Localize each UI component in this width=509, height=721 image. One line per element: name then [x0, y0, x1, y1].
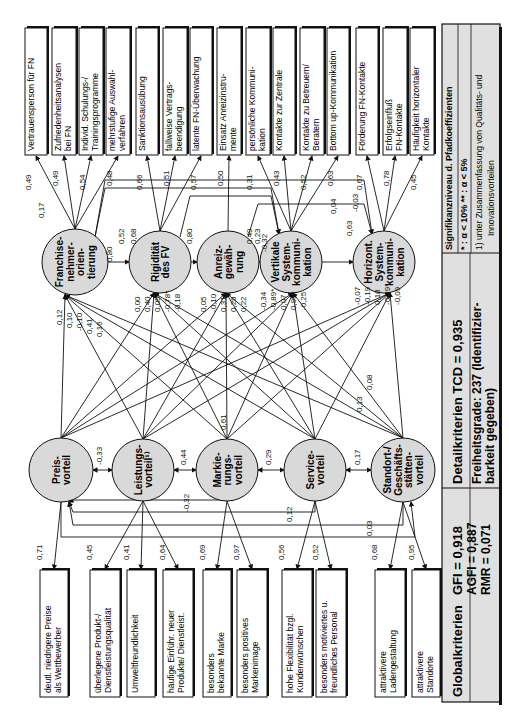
construct-label: kommuni- [384, 238, 395, 286]
bottom-indicator-box: attraktivereLadengestaltung [375, 568, 407, 697]
coefficient-label: 0,63 [326, 170, 335, 186]
top-indicator-label: beendigung [174, 106, 184, 151]
bottom-indicator-label: Produkte/ Dienstleist. [176, 613, 186, 693]
coefficient-label: 0,52 [311, 544, 320, 560]
coefficient-label: 0,05 [153, 296, 162, 312]
coefficient-label: 0,44 [179, 449, 188, 465]
top-indicator-label: Trainingsprogramme [90, 73, 100, 151]
bottom-indicator-label: Standorte [425, 656, 435, 693]
top-indicator-label: Einsatz Anreizinstru- [218, 73, 228, 151]
top-indicator-label: fallweise Vertrags- [164, 81, 174, 151]
coefficient-label: 0,45 [85, 544, 94, 560]
legend-significance-title: Signifikanzniveau d. Pfadkoeffizienten [444, 86, 454, 250]
top-indicator-label: Beratern [311, 118, 321, 151]
construct-label: Geschäfts- [393, 444, 404, 496]
coefficient-label: 0,71 [35, 544, 44, 560]
coefficient-label: 0,43 [272, 170, 281, 186]
top-indicator-box: ErfolgseinflußFN-Kontakte [383, 26, 409, 155]
bottom-indicator-label: attraktivere [415, 651, 425, 693]
coefficient-label: 0,99* [289, 291, 298, 310]
construct-label: stätten- [403, 452, 414, 488]
bottom-indicator-box: besonders motiviertes u.freundliches Per… [316, 568, 348, 697]
coefficient-label: 0,03 [365, 520, 374, 536]
coefficient-label: -0,32 [182, 493, 191, 512]
construct-label: gewäh- [223, 245, 234, 279]
legend-global-label: Globalkriterien [450, 605, 465, 697]
construct-label: Rigidität [150, 241, 161, 282]
bottom-indicator-label: Ladengestaltung [388, 630, 398, 693]
coefficient-label: 0,78 [382, 170, 391, 186]
top-indicator-label: Kontakte zur Zentrale [274, 69, 284, 151]
coefficient-label: -0,09 [393, 286, 402, 305]
top-indicator-box: Kontakte zur Zentrale [273, 26, 297, 155]
bottom-indicator-label: Umweltfreundlichkeit [130, 614, 140, 693]
bottom-indicator-label: hohe Flexibilität bzgl. [285, 614, 295, 693]
bottom-indicator-label: Kundenwünschen [295, 625, 305, 693]
bottom-indicator-box: besondersbekannte Marke [203, 568, 233, 697]
top-indicator-boxes: Vertrauensperson für FNZufriedenheitsana… [25, 26, 436, 155]
legend-footnote-1: 1) unter Zusammenfassung von Qualitäts- … [474, 74, 484, 250]
top-indicator-box: Förderung FN-Kontakte [356, 26, 380, 155]
coefficient-label: 0,40 [143, 296, 152, 312]
coefficient-label: 0,17 [353, 449, 362, 465]
construct-label: kation [302, 247, 313, 276]
coefficient-label: 0,18 [373, 289, 382, 305]
bottom-indicator-box: besonders positivesMarkenimage [237, 568, 269, 697]
top-indicator-label: Zufriedenheitsanalysen [53, 63, 63, 151]
upper-construct-node: Franchise-nehmer-orien-tierung [42, 229, 108, 295]
coefficient-label: 0,67 [355, 174, 364, 190]
coefficient-label: 0,13 [355, 396, 364, 412]
bottom-indicator-label: überlegene Produkt-/ [93, 613, 103, 693]
legend-agfi: AGFI = 0,887 [465, 522, 479, 595]
coefficient-label: -0,33 [95, 446, 104, 465]
coefficient-label: 0,07 [279, 294, 288, 310]
bottom-indicator-label: deutl. niedrigere Preise [43, 605, 53, 693]
top-indicator-label: Vertrauensperson für FN [26, 58, 36, 151]
coefficient-label: 0,00 [133, 296, 142, 312]
bottom-indicator-label: Dienstleistungsqualität [103, 607, 113, 693]
coefficient-label: 0,56 [277, 544, 286, 560]
top-indicator-box: Häufigkeit horizontalerKontakte [410, 26, 436, 155]
coefficient-label: 0,57 [189, 174, 198, 190]
upper-construct-node: VertikaleSystem-kommuni-kation [260, 231, 322, 293]
bottom-indicator-label: besonders [206, 653, 216, 693]
construct-label: System- [281, 243, 292, 282]
bottom-indicator-label: als Wettbewerber [53, 627, 63, 693]
top-indicator-label: Kontakte [421, 117, 431, 151]
top-indicator-label: Sanktionsausübung [137, 76, 147, 151]
coefficient-label: -0,32 [260, 233, 269, 252]
bottom-indicator-box: deutl. niedrigere Preiseals Wettbewerber [40, 568, 70, 697]
construct-label: Vertikale [270, 241, 281, 283]
coefficient-label: 0,52 [299, 174, 308, 190]
construct-label: vorteil [61, 455, 72, 485]
legend-freiheit-2: barkeit gegeben) [483, 388, 497, 484]
coefficient-label: -0,03 [351, 193, 360, 212]
legend-significance-values: * : α < 10% ** : α < 5% [459, 158, 469, 250]
coefficient-label: 0,48 [105, 170, 114, 186]
top-indicator-label: Kontakte zu Betreuern/ [301, 63, 311, 151]
top-indicator-label: kation [257, 128, 267, 151]
construct-label: Horizont. [363, 240, 374, 284]
coefficient-labels: 0,490,490,540,480,660,510,570,500,310,43… [24, 170, 418, 560]
coefficient-label: 0,80 [185, 228, 194, 244]
construct-label: nehmer- [65, 242, 76, 281]
coefficient-label: 0,80 [105, 246, 114, 262]
construct-label: vorteil [233, 455, 244, 485]
bottom-indicator-label: Markenimage [250, 641, 260, 693]
top-indicator-box: Bottom up-Kommunikation [327, 26, 351, 155]
construct-label: Service- [305, 451, 316, 490]
upper-construct-nodes: Franchise-nehmer-orien-tierungRigiditätd… [42, 229, 415, 295]
lower-construct-node: Service-vorteil [284, 439, 346, 501]
top-indicator-label: Bottom up-Kommunikation [328, 51, 338, 151]
construct-label: rungs- [222, 454, 233, 485]
coefficient-label: -0,34 [259, 291, 268, 310]
lower-construct-node: Markie-rungs-vorteil [196, 439, 258, 501]
coefficient-label: -0,78* [163, 291, 172, 312]
coefficient-label: 0,12 [285, 506, 294, 522]
coefficient-label: -0,89* [269, 289, 278, 310]
coefficient-label: -0,10 [209, 293, 218, 312]
bottom-indicator-label: attraktivere [378, 651, 388, 693]
bottom-indicator-box: überlegene Produkt-/Dienstleistungsquali… [90, 568, 122, 697]
construct-label: orien- [75, 248, 86, 276]
coefficient-label: -0,69* [383, 284, 392, 305]
